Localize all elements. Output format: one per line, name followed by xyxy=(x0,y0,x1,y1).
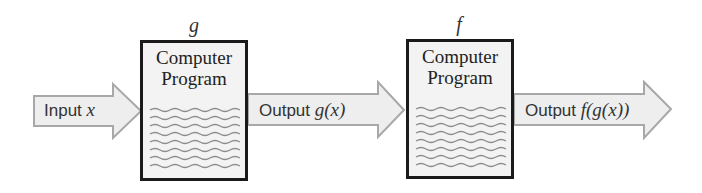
output-arrow-label: Output f(g(x)) xyxy=(525,99,629,121)
program-f-title-line2: Program xyxy=(409,67,511,88)
input-label-math: x xyxy=(87,99,95,120)
output-label-text: Output xyxy=(525,101,581,120)
middle-label-math: g(x) xyxy=(315,99,346,120)
input-arrow xyxy=(0,0,702,193)
program-f-code-lines-icon xyxy=(414,105,508,171)
output-label-math: f(g(x)) xyxy=(581,99,630,120)
program-f-box: Computer Program xyxy=(406,39,514,179)
program-g-title-line2: Program xyxy=(143,68,245,89)
program-g-code-lines-icon xyxy=(148,106,242,172)
program-g-name: g xyxy=(174,14,214,37)
middle-arrow-label: Output g(x) xyxy=(259,99,345,121)
program-f-name: f xyxy=(439,13,479,36)
middle-label-text: Output xyxy=(259,101,315,120)
input-arrow-label: Input x xyxy=(44,99,95,121)
program-g-title-line1: Computer xyxy=(143,47,245,68)
program-f-title-line1: Computer xyxy=(409,46,511,67)
input-label-text: Input xyxy=(44,101,87,120)
program-g-title: Computer Program xyxy=(143,47,245,89)
composition-diagram: Input x Output g(x) Output f(g(x)) g Com… xyxy=(0,0,702,193)
program-f-title: Computer Program xyxy=(409,46,511,88)
program-g-box: Computer Program xyxy=(140,40,248,181)
